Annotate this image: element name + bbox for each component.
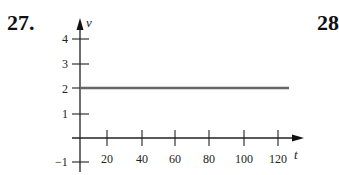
x-tick-label: 20 xyxy=(101,152,113,166)
y-tick-label: −1 xyxy=(55,155,68,169)
x-axis-arrow-icon xyxy=(292,135,304,142)
y-tick-label: 4 xyxy=(62,32,68,46)
x-tick-label: 80 xyxy=(203,152,215,166)
y-tick-label: 3 xyxy=(62,57,68,71)
x-tick-label: 40 xyxy=(136,152,148,166)
x-tick-labels: 20 40 60 80 100 120 xyxy=(101,152,287,166)
y-axis-arrow-icon xyxy=(77,18,84,30)
y-axis-label: v xyxy=(86,15,92,30)
x-axis-label: t xyxy=(294,147,298,162)
x-tick-label: 120 xyxy=(269,152,287,166)
y-tick-label: 2 xyxy=(62,82,68,96)
y-tick-labels: 4 3 2 1 −1 xyxy=(55,32,68,169)
x-tick-label: 100 xyxy=(235,152,253,166)
x-tick-label: 60 xyxy=(169,152,181,166)
y-tick-label: 1 xyxy=(62,107,68,121)
